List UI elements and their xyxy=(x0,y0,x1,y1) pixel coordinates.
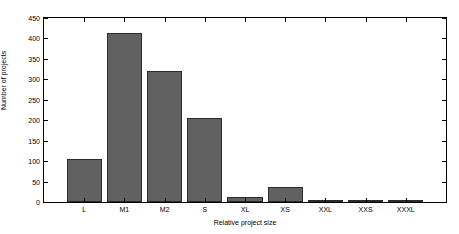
x-tick-label: S xyxy=(202,206,207,213)
y-tick-label: 250 xyxy=(28,96,40,103)
x-tick-mark xyxy=(406,198,407,202)
x-tick-label: XXXL xyxy=(397,206,415,213)
y-tick-mark xyxy=(44,182,48,183)
y-tick-mark xyxy=(44,18,48,19)
bar-s xyxy=(187,118,222,202)
x-tick-mark xyxy=(205,198,206,202)
x-tick-mark xyxy=(84,198,85,202)
x-tick-label: XS xyxy=(281,206,290,213)
y-tick-mark xyxy=(44,161,48,162)
y-tick-mark xyxy=(44,38,48,39)
y-tick-mark xyxy=(44,59,48,60)
bar-m1 xyxy=(107,33,142,202)
plot-axes-box: 050100150200250300350400450 LM1M2SXLXSXX… xyxy=(43,17,447,203)
x-tick-mark xyxy=(325,198,326,202)
x-tick-mark xyxy=(124,198,125,202)
x-tick-mark xyxy=(366,198,367,202)
y-tick-mark xyxy=(44,141,48,142)
x-tick-mark-mirror xyxy=(366,18,367,22)
y-tick-mark xyxy=(44,79,48,80)
x-tick-mark-mirror xyxy=(205,18,206,22)
y-tick-label: 0 xyxy=(36,199,40,206)
y-tick-mark-mirror xyxy=(442,141,446,142)
y-tick-mark-mirror xyxy=(442,59,446,60)
y-axis-title: Number of projects xyxy=(0,51,7,110)
y-tick-mark-mirror xyxy=(442,182,446,183)
x-tick-mark-mirror xyxy=(165,18,166,22)
y-tick-mark xyxy=(44,202,48,203)
x-tick-mark-mirror xyxy=(124,18,125,22)
x-tick-label: XL xyxy=(241,206,250,213)
x-tick-mark-mirror xyxy=(406,18,407,22)
bar-m2 xyxy=(147,71,182,202)
x-tick-label: XXL xyxy=(319,206,332,213)
y-tick-label: 100 xyxy=(28,158,40,165)
y-tick-label: 400 xyxy=(28,35,40,42)
y-tick-label: 150 xyxy=(28,137,40,144)
x-tick-label: M1 xyxy=(120,206,130,213)
x-tick-mark xyxy=(285,198,286,202)
x-axis-title: Relative project size xyxy=(43,219,447,226)
y-tick-mark-mirror xyxy=(442,120,446,121)
y-tick-mark-mirror xyxy=(442,202,446,203)
x-tick-mark-mirror xyxy=(285,18,286,22)
x-tick-mark xyxy=(245,198,246,202)
x-tick-mark-mirror xyxy=(325,18,326,22)
y-tick-mark-mirror xyxy=(442,79,446,80)
x-tick-mark-mirror xyxy=(245,18,246,22)
y-tick-label: 200 xyxy=(28,117,40,124)
x-tick-mark xyxy=(165,198,166,202)
y-tick-mark-mirror xyxy=(442,38,446,39)
y-tick-mark xyxy=(44,120,48,121)
x-tick-label: XXS xyxy=(359,206,373,213)
y-tick-label: 350 xyxy=(28,55,40,62)
y-tick-mark-mirror xyxy=(442,18,446,19)
y-tick-mark-mirror xyxy=(442,161,446,162)
y-tick-mark-mirror xyxy=(442,100,446,101)
y-tick-label: 300 xyxy=(28,76,40,83)
x-tick-label: L xyxy=(82,206,86,213)
y-tick-label: 50 xyxy=(32,178,40,185)
figure: 050100150200250300350400450 LM1M2SXLXSXX… xyxy=(0,0,459,234)
x-tick-mark-mirror xyxy=(84,18,85,22)
bar-l xyxy=(67,159,102,202)
x-tick-label: M2 xyxy=(160,206,170,213)
plot-data-area: 050100150200250300350400450 LM1M2SXLXSXX… xyxy=(44,18,446,202)
y-tick-mark xyxy=(44,100,48,101)
y-tick-label: 450 xyxy=(28,15,40,22)
